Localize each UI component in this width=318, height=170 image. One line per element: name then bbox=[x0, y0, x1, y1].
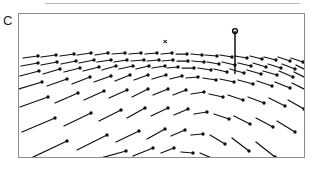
flow-vector-line bbox=[235, 56, 247, 58]
flow-vector-line bbox=[292, 83, 305, 90]
flow-vector-head-dot bbox=[248, 122, 251, 125]
flow-vector-line bbox=[43, 69, 60, 74]
flow-vector-line bbox=[153, 89, 168, 95]
flow-vector-line bbox=[220, 55, 232, 57]
flow-vector-head-dot bbox=[55, 60, 58, 63]
flow-vector-line bbox=[116, 131, 139, 142]
flow-vector-head-dot bbox=[232, 80, 235, 83]
flow-vector-head-dot bbox=[270, 84, 273, 87]
flow-vector-line bbox=[296, 65, 305, 70]
flow-vector-line bbox=[257, 81, 272, 86]
flow-vector-head-dot bbox=[217, 62, 220, 65]
flow-vector-line bbox=[41, 55, 56, 57]
flow-vector-line bbox=[200, 153, 214, 158]
flow-vector-head-dot bbox=[227, 117, 230, 120]
flow-vector-line bbox=[152, 66, 165, 68]
flow-vector-line bbox=[282, 64, 295, 69]
flow-vector-line bbox=[222, 62, 235, 65]
flow-vector-line bbox=[264, 57, 276, 60]
flow-vector-line bbox=[269, 98, 285, 106]
flow-vector-line bbox=[203, 78, 216, 80]
flow-vector-head-dot bbox=[139, 51, 142, 54]
flow-vector-head-dot bbox=[202, 90, 205, 93]
flow-vector-line bbox=[55, 93, 78, 103]
flow-vector-head-dot bbox=[288, 86, 291, 89]
flow-vector-line bbox=[109, 90, 127, 98]
flow-vector-line bbox=[97, 60, 111, 62]
flow-vector-head-dot bbox=[155, 51, 158, 54]
flow-vector-head-dot bbox=[157, 58, 160, 61]
flow-vector-line bbox=[248, 97, 264, 103]
flow-vector-head-dot bbox=[65, 77, 68, 80]
flow-vector-head-dot bbox=[304, 88, 305, 91]
flow-vector-line bbox=[275, 82, 290, 88]
flow-vector-head-dot bbox=[124, 149, 127, 152]
flow-vector-line bbox=[234, 116, 250, 124]
flow-vector-line bbox=[29, 141, 67, 158]
flow-vector-head-dot bbox=[131, 64, 134, 67]
flow-vector-head-dot bbox=[247, 149, 250, 152]
flow-vector-head-dot bbox=[109, 58, 112, 61]
flow-vector-line bbox=[278, 57, 290, 61]
flow-vector-head-dot bbox=[260, 57, 263, 60]
flow-vector-line bbox=[19, 82, 42, 89]
flow-vector-line bbox=[161, 148, 174, 153]
flow-vector-line bbox=[47, 79, 67, 86]
flow-vector-line bbox=[133, 148, 153, 156]
flow-vector-line bbox=[279, 71, 293, 77]
flow-vector-head-dot bbox=[37, 69, 40, 72]
flow-vector-head-dot bbox=[186, 107, 189, 110]
flow-vector-head-dot bbox=[201, 132, 204, 135]
flow-vector-line bbox=[191, 134, 203, 135]
flow-vector-line bbox=[112, 53, 125, 54]
flow-vector-line bbox=[263, 71, 277, 75]
flow-vector-head-dot bbox=[291, 75, 294, 78]
flow-vector-head-dot bbox=[259, 72, 262, 75]
flow-vector-line bbox=[22, 118, 55, 132]
flow-vector-line bbox=[230, 69, 244, 73]
flow-vector-line bbox=[194, 112, 207, 114]
flow-vector-head-dot bbox=[283, 104, 286, 107]
flow-vector-line bbox=[64, 113, 91, 126]
flow-vector-line bbox=[220, 79, 234, 82]
flow-vector-line bbox=[205, 55, 217, 56]
panel-letter-label: C bbox=[3, 14, 12, 27]
flow-vector-head-dot bbox=[212, 157, 215, 158]
flow-vector-line bbox=[214, 114, 229, 119]
flow-vector-head-dot bbox=[125, 88, 128, 91]
flow-vector-head-dot bbox=[147, 64, 150, 67]
flow-vector-head-dot bbox=[102, 89, 105, 92]
flow-vector-head-dot bbox=[223, 142, 226, 145]
flow-vector-head-dot bbox=[123, 51, 126, 54]
flow-vector-head-dot bbox=[293, 130, 296, 133]
flow-vector-head-dot bbox=[176, 65, 179, 68]
flow-vector-line bbox=[291, 58, 303, 62]
flow-vector-line bbox=[170, 76, 182, 79]
flow-vector-line bbox=[247, 70, 261, 74]
flow-vector-head-dot bbox=[304, 68, 305, 71]
flow-vector-line bbox=[20, 97, 48, 107]
flow-vector-line bbox=[41, 62, 57, 65]
flow-vector-line bbox=[174, 109, 188, 115]
flow-vector-line bbox=[171, 130, 185, 136]
flow-vector-line bbox=[95, 53, 108, 55]
flow-vector-line bbox=[21, 63, 38, 66]
flow-vector-head-dot bbox=[271, 125, 274, 128]
flow-vector-head-dot bbox=[214, 78, 217, 81]
flow-vector-head-dot bbox=[128, 73, 131, 76]
flow-vector-line bbox=[145, 53, 157, 54]
flow-vector-line bbox=[250, 56, 262, 59]
vector-glyph-layer bbox=[19, 51, 305, 158]
flow-vector-head-dot bbox=[89, 111, 92, 114]
flow-vector-line bbox=[136, 66, 149, 69]
flow-vector-line bbox=[60, 54, 74, 56]
flow-vector-line bbox=[115, 75, 130, 81]
flow-vector-head-dot bbox=[106, 51, 109, 54]
flow-vector-head-dot bbox=[185, 52, 188, 55]
flow-vector-head-dot bbox=[202, 60, 205, 63]
optic-flow-vector-field bbox=[19, 14, 305, 158]
flow-vector-line bbox=[64, 68, 80, 72]
flow-vector-line bbox=[61, 61, 76, 64]
flow-vector-head-dot bbox=[293, 67, 296, 70]
flow-vector-head-dot bbox=[301, 60, 304, 63]
